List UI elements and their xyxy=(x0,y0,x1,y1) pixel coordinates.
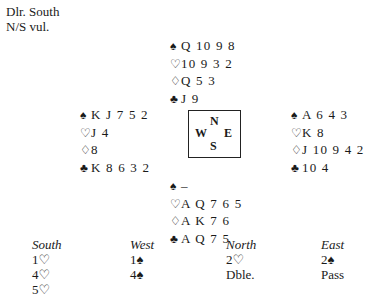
auction-header-north: North xyxy=(226,237,256,252)
west-spades: ♠K J 7 5 2 xyxy=(80,106,150,124)
auction-bid: 4♡ xyxy=(32,267,62,282)
compass-box: N W E S xyxy=(188,110,241,158)
compass-east: E xyxy=(224,126,232,141)
diamond-icon: ♢ xyxy=(170,73,181,91)
heart-icon: ♡ xyxy=(291,125,302,143)
auction-column-west: West 1♠ 4♠ xyxy=(130,237,154,282)
west-hearts: ♡J 4 xyxy=(80,124,150,142)
auction-bid: 1♡ xyxy=(32,252,62,267)
east-hand: ♠A 6 4 3 ♡K 8 ♢J 10 9 4 2 ♣10 4 xyxy=(291,106,365,176)
vulnerability-label: N/S vul. xyxy=(6,19,59,34)
spade-icon: ♠ xyxy=(170,38,181,56)
auction-bid: 1♠ xyxy=(130,252,154,267)
heart-icon: ♡ xyxy=(170,196,181,214)
auction-header-south: South xyxy=(32,237,62,252)
compass-north: N xyxy=(210,114,219,129)
south-hearts: ♡A Q 7 6 5 xyxy=(170,195,242,213)
auction-bid: 4♠ xyxy=(130,267,154,282)
auction-bid: Dble. xyxy=(226,267,256,282)
east-diamonds: ♢J 10 9 4 2 xyxy=(291,141,365,159)
auction-header-east: East xyxy=(321,237,344,252)
north-hand: ♠Q 10 9 8 ♡10 9 3 2 ♢Q 5 3 ♣J 9 xyxy=(170,37,236,107)
dealer-label: Dlr. South xyxy=(6,4,59,19)
compass-west: W xyxy=(195,126,207,141)
auction-bid: 2♡ xyxy=(226,252,256,267)
diamond-icon: ♢ xyxy=(291,142,302,160)
west-hand: ♠K J 7 5 2 ♡J 4 ♢8 ♣K 8 6 3 2 xyxy=(80,106,150,176)
east-hearts: ♡K 8 xyxy=(291,124,365,142)
auction-bid: 2♠ xyxy=(321,252,344,267)
auction-bid: 5♡ xyxy=(32,282,62,297)
auction-column-north: North 2♡ Dble. xyxy=(226,237,256,282)
north-hearts: ♡10 9 3 2 xyxy=(170,55,236,73)
spade-icon: ♠ xyxy=(291,107,302,125)
club-icon: ♣ xyxy=(170,231,181,249)
spade-icon: ♠ xyxy=(170,178,181,196)
auction-column-east: East 2♠ Pass xyxy=(321,237,344,282)
spade-icon: ♠ xyxy=(80,107,91,125)
compass-south: S xyxy=(210,139,217,154)
east-clubs: ♣10 4 xyxy=(291,159,365,177)
diamond-icon: ♢ xyxy=(80,142,91,160)
club-icon: ♣ xyxy=(170,91,181,109)
north-clubs: ♣J 9 xyxy=(170,90,236,108)
heart-icon: ♡ xyxy=(80,125,91,143)
auction-bid: Pass xyxy=(321,267,344,282)
north-diamonds: ♢Q 5 3 xyxy=(170,72,236,90)
west-clubs: ♣K 8 6 3 2 xyxy=(80,159,150,177)
diamond-icon: ♢ xyxy=(170,213,181,231)
club-icon: ♣ xyxy=(80,160,91,178)
east-spades: ♠A 6 4 3 xyxy=(291,106,365,124)
club-icon: ♣ xyxy=(291,160,302,178)
heart-icon: ♡ xyxy=(170,56,181,74)
west-diamonds: ♢8 xyxy=(80,141,150,159)
south-spades: ♠– xyxy=(170,177,242,195)
auction-column-south: South 1♡ 4♡ 5♡ xyxy=(32,237,62,297)
deal-info: Dlr. South N/S vul. xyxy=(6,4,59,34)
south-diamonds: ♢A K 7 6 xyxy=(170,212,242,230)
auction-header-west: West xyxy=(130,237,154,252)
north-spades: ♠Q 10 9 8 xyxy=(170,37,236,55)
